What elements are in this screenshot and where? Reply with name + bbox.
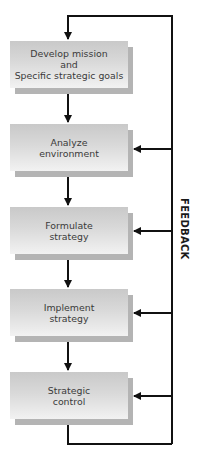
step-box: Implement strategy [10, 289, 128, 336]
step-label: Strategic control [48, 385, 90, 407]
step-label: Develop mission and Specific strategic g… [15, 48, 124, 81]
step-implement-strategy: Implement strategy [10, 289, 128, 336]
step-label: Formulate strategy [45, 220, 92, 242]
step-label: Implement strategy [44, 302, 95, 324]
step-label: Analyze environment [39, 137, 99, 159]
step-box: Analyze environment [10, 124, 128, 171]
step-box: Strategic control [10, 372, 128, 419]
step-analyze-environment: Analyze environment [10, 124, 128, 171]
step-strategic-control: Strategic control [10, 372, 128, 419]
step-box: Formulate strategy [10, 207, 128, 254]
step-formulate-strategy: Formulate strategy [10, 207, 128, 254]
step-develop-mission: Develop mission and Specific strategic g… [10, 41, 128, 88]
step-box: Develop mission and Specific strategic g… [10, 41, 128, 88]
feedback-label: FEEDBACK [178, 198, 190, 258]
